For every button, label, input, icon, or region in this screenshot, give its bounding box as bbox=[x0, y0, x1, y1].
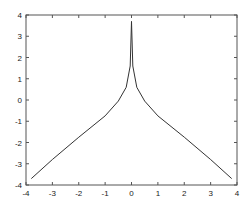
y-tick-label: -4 bbox=[15, 181, 23, 190]
y-tick-label: -3 bbox=[15, 160, 23, 169]
y-tick-label: 2 bbox=[18, 54, 23, 63]
y-tick-label: 3 bbox=[18, 32, 23, 41]
x-tick-label: 3 bbox=[208, 189, 213, 198]
chart: -4-3-2-101234-4-3-2-101234 bbox=[0, 0, 251, 206]
y-tick-label: 1 bbox=[18, 75, 23, 84]
x-tick-label: 2 bbox=[182, 189, 187, 198]
y-tick-label: -2 bbox=[15, 139, 23, 148]
x-tick-label: -4 bbox=[22, 189, 30, 198]
y-tick-label: 0 bbox=[18, 96, 23, 105]
y-tick-label: -1 bbox=[15, 117, 23, 126]
x-tick-label: -2 bbox=[75, 189, 83, 198]
x-tick-label: 0 bbox=[129, 189, 134, 198]
plot-area bbox=[26, 15, 237, 185]
x-tick-label: -1 bbox=[102, 189, 110, 198]
x-tick-label: 1 bbox=[156, 189, 161, 198]
x-tick-label: 4 bbox=[235, 189, 240, 198]
y-tick-label: 4 bbox=[18, 11, 23, 20]
x-tick-label: -3 bbox=[49, 189, 57, 198]
